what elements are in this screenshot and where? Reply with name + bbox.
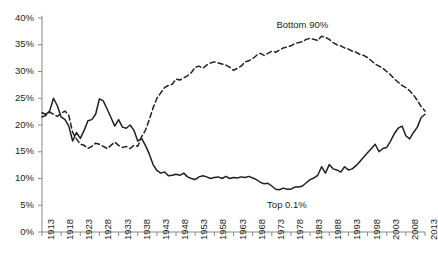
x-tick-label: 1988 — [333, 219, 343, 240]
x-tick-label: 1923 — [84, 219, 94, 240]
series-annotation: Bottom 90% — [276, 19, 328, 30]
x-tick-label: 1943 — [161, 219, 171, 240]
x-tick-label: 1998 — [372, 219, 382, 240]
x-tick-label: 1933 — [123, 219, 133, 240]
x-tick-label: 1963 — [238, 219, 248, 240]
x-tick-label: 2003 — [391, 219, 401, 240]
x-tick-label: 1918 — [65, 219, 75, 240]
y-tick-label: 5% — [0, 200, 34, 210]
y-tick-label: 20% — [0, 120, 34, 130]
x-tick-label: 1958 — [218, 219, 228, 240]
y-tick-label: 35% — [0, 39, 34, 49]
x-tick-label: 1928 — [103, 219, 113, 240]
x-tick-label: 1983 — [314, 219, 324, 240]
x-tick-label: 1938 — [142, 219, 152, 240]
x-tick-label: 2008 — [410, 219, 420, 240]
x-tick-label: 1953 — [199, 219, 209, 240]
x-tick-label: 1913 — [46, 219, 56, 240]
y-tick-label: 25% — [0, 93, 34, 103]
x-tick-label: 1968 — [257, 219, 267, 240]
x-tick-label: 2013 — [429, 219, 438, 240]
y-tick-label: 10% — [0, 173, 34, 183]
x-tick-label: 1973 — [276, 219, 286, 240]
series-line-bottom-90 — [42, 36, 425, 148]
x-tick-label: 1993 — [352, 219, 362, 240]
y-tick-label: 15% — [0, 146, 34, 156]
chart-container: 0%5%10%15%20%25%30%35%40%191319181923192… — [0, 0, 438, 278]
y-tick-label: 40% — [0, 13, 34, 23]
x-tick-label: 1978 — [295, 219, 305, 240]
series-annotation: Top 0.1% — [267, 199, 307, 210]
y-tick-label: 30% — [0, 66, 34, 76]
y-tick-label: 0% — [0, 227, 34, 237]
x-tick-label: 1948 — [180, 219, 190, 240]
